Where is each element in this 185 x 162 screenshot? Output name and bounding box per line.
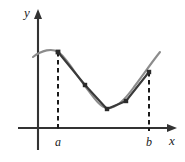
- point-p3-marker: [124, 99, 128, 103]
- tick-label-b: b: [146, 135, 152, 149]
- math-figure: y x a b: [0, 0, 185, 162]
- point-p1-marker: [83, 83, 87, 87]
- graph-canvas: y x a b: [0, 0, 185, 162]
- smooth-curve: [33, 50, 160, 108]
- x-axis-arrowhead: [167, 124, 177, 132]
- point-p2-marker: [105, 107, 109, 111]
- tick-label-a: a: [55, 135, 61, 149]
- point-a-marker: [56, 50, 61, 55]
- point-b-marker: [147, 70, 151, 74]
- x-axis-label: x: [168, 133, 175, 148]
- y-axis-label: y: [22, 5, 30, 20]
- y-axis-arrowhead: [34, 9, 42, 19]
- x-axis: [18, 124, 177, 132]
- inscribed-polyline: [58, 52, 149, 109]
